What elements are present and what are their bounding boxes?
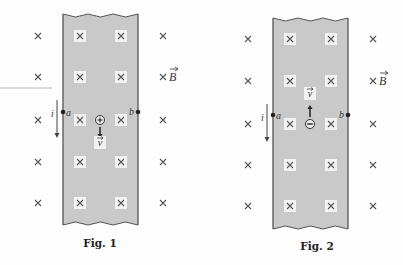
b-field-into-page-icon (245, 121, 251, 127)
b-field-into-page-icon (160, 74, 166, 80)
b-field-into-page-icon (370, 36, 376, 42)
arrow-down-icon (55, 133, 60, 138)
arrow-down-icon (265, 137, 270, 142)
strip-bottom-torn-edge (273, 226, 348, 229)
diagram-canvas: BiabvFig. 1BiabvFig. 2 (0, 0, 403, 265)
strip-top-torn-edge (273, 18, 348, 21)
point-a-label: a (276, 110, 281, 121)
b-field-into-page-icon (370, 78, 376, 84)
current-label-i: i (51, 108, 54, 119)
b-field-into-page-icon (35, 74, 41, 80)
b-field-into-page-icon (370, 203, 376, 209)
b-field-into-page-icon (160, 200, 166, 206)
b-field-into-page-icon (245, 78, 251, 84)
b-field-into-page-icon (35, 200, 41, 206)
b-field-into-page-icon (245, 203, 251, 209)
figure-caption: Fig. 2 (300, 240, 333, 252)
figure-caption: Fig. 1 (83, 237, 116, 249)
strip-top-torn-edge (63, 14, 138, 17)
strip-bottom-torn-edge (63, 222, 138, 225)
point-b-dot (346, 113, 351, 118)
hall-effect-figure: BiabvFig. 1BiabvFig. 2 (0, 0, 403, 265)
b-field-into-page-icon (160, 159, 166, 165)
current-label-i: i (261, 112, 264, 123)
b-field-into-page-icon (370, 162, 376, 168)
b-field-into-page-icon (245, 36, 251, 42)
b-field-into-page-icon (35, 159, 41, 165)
b-field-into-page-icon (35, 117, 41, 123)
b-field-into-page-icon (160, 33, 166, 39)
point-a-dot (61, 110, 66, 115)
point-b-label: b (129, 106, 134, 117)
point-a-dot (271, 113, 276, 118)
b-field-into-page-icon (160, 117, 166, 123)
b-field-into-page-icon (370, 121, 376, 127)
point-a-label: a (66, 107, 71, 118)
figure-1: BiabvFig. 1 (35, 14, 178, 249)
field-label-b: B (169, 70, 177, 84)
b-field-into-page-icon (35, 33, 41, 39)
field-label-b: B (379, 74, 387, 88)
point-b-label: b (339, 109, 344, 120)
point-b-dot (136, 110, 141, 115)
figure-2: BiabvFig. 2 (245, 18, 388, 252)
b-field-into-page-icon (245, 162, 251, 168)
